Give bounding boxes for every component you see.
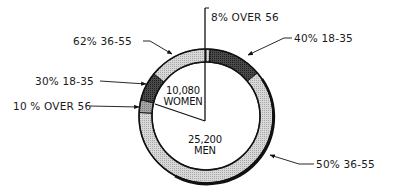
leader-women-18-35 <box>100 81 146 84</box>
leader-men-18-35 <box>248 38 292 55</box>
women-word: WOMEN <box>163 96 203 107</box>
leader-women-36-55 <box>143 41 172 54</box>
label-women-36-55: 62% 36-55 <box>73 35 132 47</box>
label-women-over-56: 10 % OVER 56 <box>13 100 91 112</box>
label-men-over-56: 8% OVER 56 <box>211 11 279 23</box>
leader-men-36-55 <box>270 155 314 164</box>
men-count: 25,200 <box>180 134 230 145</box>
label-men-36-55: 50% 36-55 <box>316 158 375 170</box>
men-count-label: 25,200 MEN <box>180 134 230 156</box>
label-women-18-35: 30% 18-35 <box>35 75 94 87</box>
women-count-label: 10,080 WOMEN <box>163 85 203 107</box>
ring-outer-outline <box>139 49 273 183</box>
men-word: MEN <box>180 145 230 156</box>
leader-women-over-56 <box>90 106 139 107</box>
label-men-18-35: 40% 18-35 <box>294 32 353 44</box>
women-count: 10,080 <box>163 85 203 96</box>
